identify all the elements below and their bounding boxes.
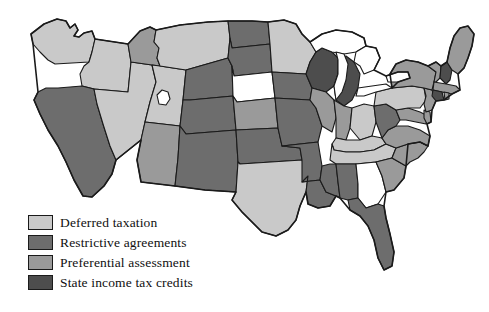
legend-label-restrictive-agreements: Restrictive agreements [60, 235, 187, 250]
map-figure: Deferred taxation Restrictive agreements… [0, 0, 489, 312]
state-MD[interactable] [396, 108, 428, 124]
state-IA[interactable] [272, 72, 312, 100]
legend-swatch-deferred-taxation [28, 215, 53, 230]
state-ND[interactable] [228, 21, 270, 48]
legend-swatch-preferential-assessment [28, 255, 53, 270]
map-legend: Deferred taxation Restrictive agreements… [28, 214, 193, 291]
legend-item-deferred-taxation[interactable]: Deferred taxation [28, 214, 193, 231]
legend-swatch-state-income-tax-credits [28, 275, 53, 290]
state-AL[interactable] [336, 164, 358, 200]
legend-swatch-restrictive-agreements [28, 235, 53, 250]
state-CO[interactable] [180, 96, 236, 134]
legend-item-state-income-tax-credits[interactable]: State income tax credits [28, 274, 193, 291]
state-OH[interactable] [350, 104, 376, 140]
state-IN[interactable] [334, 100, 352, 140]
state-AZ[interactable] [137, 122, 180, 186]
state-NM[interactable] [175, 126, 238, 192]
legend-item-preferential-assessment[interactable]: Preferential assessment [28, 254, 193, 271]
legend-label-deferred-taxation: Deferred taxation [60, 215, 157, 230]
state-TX[interactable] [232, 160, 308, 236]
legend-item-restrictive-agreements[interactable]: Restrictive agreements [28, 234, 193, 251]
legend-label-preferential-assessment: Preferential assessment [60, 255, 190, 270]
legend-label-state-income-tax-credits: State income tax credits [60, 275, 193, 290]
